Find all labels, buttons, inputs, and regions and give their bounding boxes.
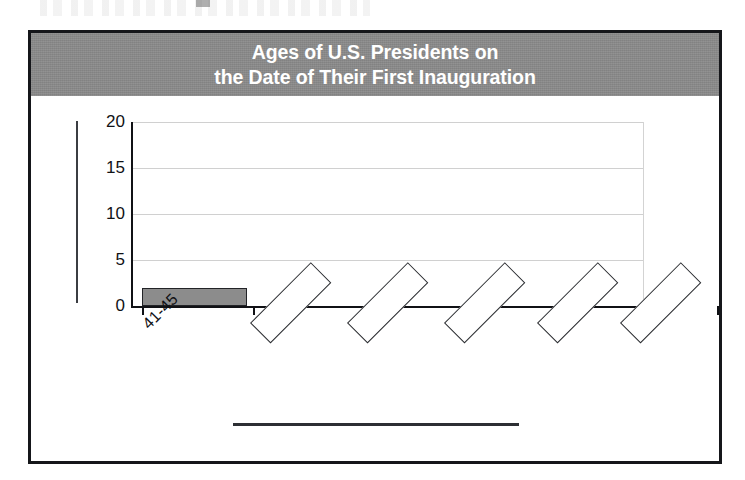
y-axis-tick-labels: 20 15 10 5 0: [89, 96, 125, 461]
gridline-20: [133, 122, 643, 123]
y-tick-label-5: 5: [116, 250, 125, 270]
x-tick-6: [717, 306, 719, 315]
x-axis-title-placeholder: [233, 423, 519, 426]
figure-frame: Ages of U.S. Presidents on the Date of T…: [28, 30, 722, 464]
gridline-10: [133, 214, 643, 215]
plot-wrapper: 20 15 10 5 0 41-45: [31, 96, 719, 461]
chart-title: Ages of U.S. Presidents on the Date of T…: [214, 40, 535, 88]
gridline-15: [133, 168, 643, 169]
chart-title-banner: Ages of U.S. Presidents on the Date of T…: [31, 33, 719, 96]
plot-area: [131, 122, 644, 308]
y-tick-label-0: 0: [116, 296, 125, 316]
gridline-5: [133, 260, 643, 261]
y-tick-label-15: 15: [106, 158, 125, 178]
x-tick-1: [253, 306, 255, 315]
scan-artifact-mark: [196, 0, 210, 7]
y-tick-label-10: 10: [106, 204, 125, 224]
y-tick-label-20: 20: [106, 112, 125, 132]
y-axis-title-placeholder: [76, 121, 78, 303]
